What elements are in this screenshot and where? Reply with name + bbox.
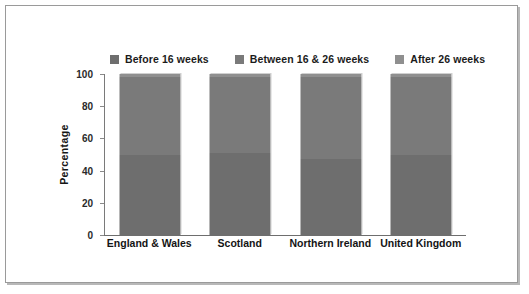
bar-group [105,74,466,235]
y-axis-tick-label: 20 [82,197,93,208]
stacked-bar[interactable] [120,74,181,235]
y-axis-tick-label: 80 [82,101,93,112]
chart-legend: Before 16 weeks Between 16 & 26 weeks Af… [110,51,485,67]
legend-label: Between 16 & 26 weeks [250,53,369,65]
bar-segment[interactable] [120,77,181,154]
legend-item-before-16-weeks: Before 16 weeks [110,53,209,65]
bar-segment[interactable] [390,77,451,154]
stacked-bar[interactable] [300,74,361,235]
bar-slot [286,74,376,235]
bar-slot [105,74,195,235]
y-axis-tick-label: 60 [82,133,93,144]
y-axis-tick: 60 [100,138,104,139]
x-axis-labels: England & WalesScotlandNorthern IrelandU… [104,237,466,249]
y-axis-tick: 100 [100,74,104,75]
legend-label: Before 16 weeks [125,53,209,65]
bar-slot [376,74,466,235]
bar-segment[interactable] [390,155,451,236]
legend-item-after-26-weeks: After 26 weeks [395,53,485,65]
bar-segment[interactable] [210,153,271,235]
x-axis-line [104,235,466,236]
y-axis-tick: 20 [100,203,104,204]
y-axis-tick-label: 100 [76,69,93,80]
legend-label: After 26 weeks [410,53,485,65]
bar-slot [195,74,285,235]
stacked-bar[interactable] [210,74,271,235]
x-axis-tick-label: Northern Ireland [285,237,376,249]
plot-area: 020406080100 [104,74,466,235]
chart-screenshot: Before 16 weeks Between 16 & 26 weeks Af… [0,0,529,294]
bar-segment[interactable] [120,155,181,236]
x-axis-tick-label: England & Wales [104,237,195,249]
bar-segment[interactable] [300,77,361,159]
bar-segment[interactable] [210,77,271,153]
x-axis-tick-label: United Kingdom [376,237,467,249]
y-axis-title: Percentage [57,74,70,235]
stacked-bar[interactable] [390,74,451,235]
y-axis-tick-label: 0 [87,230,93,241]
legend-square-icon [110,55,119,64]
chart-frame: Before 16 weeks Between 16 & 26 weeks Af… [5,5,518,283]
y-axis-tick-label: 40 [82,165,93,176]
y-axis-tick: 40 [100,171,104,172]
legend-square-icon [235,55,244,64]
legend-item-between-16-and-26-weeks: Between 16 & 26 weeks [235,53,369,65]
y-axis-tick: 0 [100,235,104,236]
y-axis-tick: 80 [100,106,104,107]
x-axis-tick-label: Scotland [195,237,286,249]
legend-square-icon [395,55,404,64]
bar-segment[interactable] [300,159,361,235]
